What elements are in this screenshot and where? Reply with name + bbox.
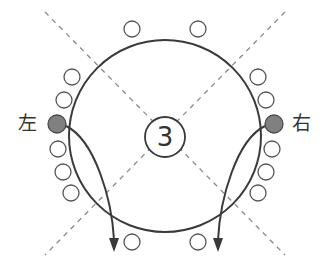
seat-circle	[258, 92, 274, 108]
left-arrow-path	[66, 126, 114, 240]
seats-bottom	[124, 234, 206, 250]
center-number: 3	[145, 120, 185, 154]
highlighted-seat-left	[48, 115, 66, 133]
seat-circle	[258, 164, 274, 180]
highlighted-seat-right	[265, 115, 283, 133]
right-label: 右	[292, 114, 311, 133]
seat-circle	[55, 164, 71, 180]
right-arrowhead-icon	[213, 238, 223, 252]
seat-circle	[250, 185, 266, 201]
seat-circle	[190, 234, 206, 250]
seat-circle	[63, 185, 79, 201]
seat-circle	[56, 92, 72, 108]
seat-circle	[64, 69, 80, 85]
seat-circle	[50, 141, 66, 157]
right-arrow-path	[218, 126, 265, 240]
left-label: 左	[18, 114, 37, 133]
seat-circle	[124, 234, 140, 250]
seats-left	[50, 69, 80, 201]
seats-right	[250, 69, 280, 201]
seats-top	[124, 21, 206, 37]
seat-circle	[250, 69, 266, 85]
left-arrowhead-icon	[109, 238, 119, 252]
seat-circle	[190, 21, 206, 37]
seat-circle	[264, 141, 280, 157]
seat-circle	[124, 21, 140, 37]
